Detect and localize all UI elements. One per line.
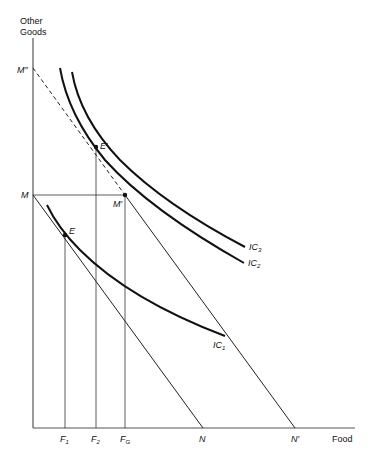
label-IC2: IC2 <box>248 258 261 269</box>
label-E: E <box>69 226 76 236</box>
budget-line-dashed-Mdoubleprime <box>33 68 125 195</box>
label-F1: F1 <box>60 434 69 445</box>
point-E-prime <box>94 145 98 149</box>
label-IC1: IC1 <box>213 340 225 351</box>
label-FG: FG <box>120 434 131 445</box>
label-M-double-prime: M″ <box>17 65 28 75</box>
x-axis-label: Food <box>332 434 353 444</box>
budget-line-MN <box>33 195 203 428</box>
point-M-prime <box>123 193 127 197</box>
budget-line-MprimeNprime <box>125 195 295 428</box>
label-M-prime: M′ <box>113 199 122 209</box>
label-IC3: IC3 <box>249 242 262 253</box>
label-N-prime: N′ <box>291 434 299 444</box>
indifference-curve-IC2 <box>60 68 244 263</box>
y-axis-label-line2: Goods <box>20 27 47 37</box>
label-F2: F2 <box>91 434 101 445</box>
label-M: M <box>21 190 29 200</box>
y-axis-label-line1: Other <box>20 16 43 26</box>
indifference-curve-diagram: Other Goods Food M″ M F1 F2 FG N N′ E E′… <box>0 0 373 452</box>
indifference-curve-IC1 <box>47 205 225 336</box>
point-E <box>63 233 67 237</box>
label-N: N <box>199 434 206 444</box>
label-E-prime: E′ <box>100 141 108 151</box>
indifference-curve-IC3 <box>72 72 245 247</box>
